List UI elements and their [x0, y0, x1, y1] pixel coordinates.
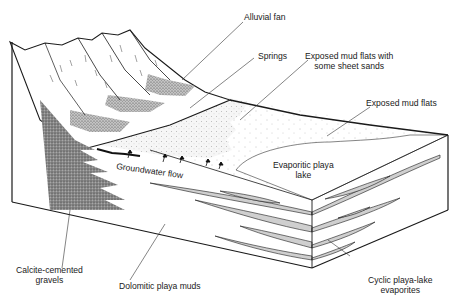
label-text-line2: some sheet sands: [305, 61, 393, 71]
label-exposed-mud-flats: Exposed mud flats: [366, 98, 437, 108]
label-text-line2: lake: [273, 170, 334, 180]
label-text: Alluvial fan: [244, 12, 286, 22]
label-cyclic-playa-lake-evaporites: Cyclic playa-lake evaporites: [368, 275, 432, 295]
label-springs: Springs: [258, 51, 287, 61]
label-exposed-mud-flats-sheet-sands: Exposed mud flats with some sheet sands: [305, 51, 393, 71]
label-text-line1: Cyclic playa-lake: [368, 275, 432, 285]
label-evaporitic-playa-lake: Evaporitic playa lake: [273, 160, 334, 180]
label-alluvial-fan: Alluvial fan: [244, 12, 286, 22]
label-calcite-cemented-gravels: Calcite-cemented gravels: [16, 265, 83, 285]
label-text: Springs: [258, 51, 287, 61]
block-diagram: [0, 0, 453, 302]
label-dolomitic-playa-muds: Dolomitic playa muds: [119, 281, 201, 291]
label-text: Exposed mud flats: [366, 98, 437, 108]
label-text: Dolomitic playa muds: [119, 281, 201, 291]
label-text-line1: Evaporitic playa: [273, 160, 334, 170]
label-text-line2: evaporites: [368, 285, 432, 295]
label-text-line2: gravels: [16, 275, 83, 285]
label-text-line1: Exposed mud flats with: [305, 51, 393, 61]
label-text-line1: Calcite-cemented: [16, 265, 83, 275]
